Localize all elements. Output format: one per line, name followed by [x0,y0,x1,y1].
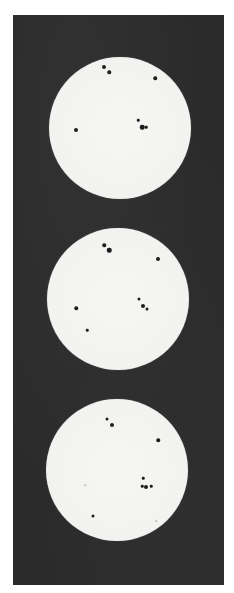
sunspot [86,329,89,332]
sunspot [156,257,160,261]
sunspot [92,515,95,518]
sunspot [138,298,141,301]
sunspot [106,418,109,421]
sunspot [107,248,112,253]
sunspot [155,520,157,522]
sunspot [137,119,140,122]
sunspot [102,243,106,247]
sunspot [153,76,157,80]
sunspot [110,423,114,427]
sunspot [150,485,153,488]
disk-bottom [46,399,188,541]
sunspot [141,304,145,308]
sunspot [74,306,78,310]
sunspot [107,70,111,74]
photo-frame [0,0,234,593]
sunspot [145,126,148,129]
sunspot [84,484,86,486]
sunspot [146,308,149,311]
sunspot [144,485,148,489]
sunspot [74,128,78,132]
sunspot [142,477,145,480]
disk-middle [47,228,189,370]
sunspot [141,485,144,488]
sunspot [156,438,160,442]
disk-top [49,57,191,199]
sunspot [102,65,106,69]
sunspot [140,125,145,130]
